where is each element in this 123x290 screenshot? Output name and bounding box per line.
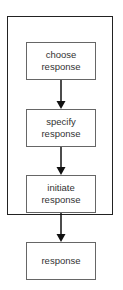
arrow-initiate-to-response <box>57 213 66 242</box>
edges <box>0 0 123 290</box>
arrow-choose-to-specify <box>57 80 66 109</box>
arrow-specify-to-initiate <box>57 147 66 175</box>
